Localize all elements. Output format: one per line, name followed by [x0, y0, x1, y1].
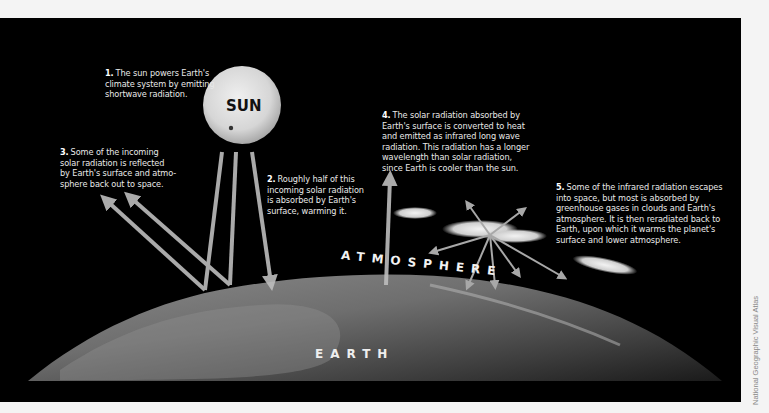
caption-2-line-2: incoming solar radiation [267, 185, 364, 195]
caption-4: 4.The solar radiation absorbed by Earth'… [382, 110, 552, 174]
earth-label: EARTH [315, 347, 394, 361]
caption-1-line-1: The sun powers Earth's [116, 68, 210, 78]
greenhouse-effect-diagram: SUN ATMOSPHERE EARTH 1.The sun powers Ea… [0, 18, 741, 402]
caption-5-line-5: Earth, upon which it warms the planet's [556, 224, 715, 234]
caption-4-line-6: since Earth is cooler than the sun. [382, 163, 518, 173]
caption-5-line-6: surface and lower atmosphere. [556, 235, 681, 245]
caption-3: 3.Some of the incoming solar radiation i… [60, 147, 190, 189]
caption-4-line-4: radiation. This radiation has a longer [382, 142, 529, 152]
sunspot [229, 126, 233, 130]
caption-2-line-1: Roughly half of this [278, 174, 355, 184]
caption-1-number: 1. [105, 68, 114, 78]
caption-4-line-2: Earth's surface is converted to heat [382, 121, 525, 131]
caption-3-line-1: Some of the incoming [71, 147, 159, 157]
caption-3-line-3: by Earth's surface and atmo- [60, 168, 176, 178]
caption-4-line-1: The solar radiation absorbed by [393, 110, 520, 120]
caption-2-number: 2. [267, 174, 276, 184]
caption-4-number: 4. [382, 110, 391, 120]
caption-5-line-4: atmosphere. It is then reradiated back t… [556, 214, 720, 224]
caption-5-line-1: Some of the infrared radiation escapes [567, 182, 723, 192]
caption-5-number: 5. [556, 182, 565, 192]
caption-5-line-3: greenhouse gases in clouds and Earth's [556, 203, 715, 213]
caption-5-line-2: into space, but most is absorbed by [556, 193, 699, 203]
image-credit: National Geographic Visual Atlas [751, 296, 760, 405]
caption-3-number: 3. [60, 147, 69, 157]
caption-1-line-2: climate system by emitting [105, 79, 215, 89]
sun-label: SUN [226, 97, 262, 115]
caption-1: 1.The sun powers Earth's climate system … [105, 68, 215, 100]
caption-1-line-3: shortwave radiation. [105, 89, 187, 99]
caption-5: 5.Some of the infrared radiation escapes… [556, 182, 741, 246]
caption-2: 2.Roughly half of this incoming solar ra… [267, 174, 377, 216]
caption-2-line-4: surface, warming it. [267, 206, 347, 216]
caption-4-line-5: wavelength than solar radiation, [382, 152, 512, 162]
caption-3-line-4: sphere back out to space. [60, 179, 164, 189]
caption-3-line-2: solar radiation is reflected [60, 158, 164, 168]
caption-2-line-3: is absorbed by Earth's [267, 195, 356, 205]
caption-4-line-3: and emitted as infrared long wave [382, 131, 520, 141]
